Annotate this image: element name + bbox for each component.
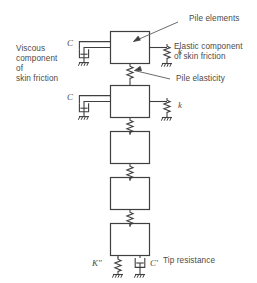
tip-dashpot xyxy=(134,256,145,278)
elastic-spring-element-2 xyxy=(150,98,173,121)
pile-elasticity-spring-1 xyxy=(127,64,133,86)
label-tip-resistance: Tip resistance xyxy=(163,256,215,266)
symbol-tip-dashpot-C: Cʹ xyxy=(150,258,158,268)
elastic-spring-element-1 xyxy=(150,44,173,67)
label-viscous-line1: Viscous xyxy=(16,44,45,54)
symbol-dashpot-C-second: C xyxy=(67,92,73,102)
tip-spring xyxy=(112,256,123,278)
viscous-dashpot-element-1 xyxy=(71,42,111,66)
symbol-dashpot-C-top: C xyxy=(67,38,73,48)
pile-element-box-4 xyxy=(111,178,150,210)
label-viscous-line4: skin friction xyxy=(16,74,58,84)
label-pile-elements: Pile elements xyxy=(189,14,239,24)
leader-pile-elasticity xyxy=(135,66,171,79)
ground-symbol xyxy=(78,117,89,120)
viscous-dashpot-element-2 xyxy=(78,96,110,120)
pile-element-box-1 xyxy=(111,32,150,64)
pile-element-box-3 xyxy=(111,132,150,164)
pile-model-diagram: Pile elements Elastic component of skin … xyxy=(0,0,257,283)
ground-symbol xyxy=(161,118,172,121)
ground-symbol xyxy=(112,275,123,278)
symbol-spring-k-second: k xyxy=(178,100,182,110)
label-elastic-component-line1: Elastic component xyxy=(174,42,243,52)
pile-element-box-5 xyxy=(111,224,150,256)
ground-symbol xyxy=(78,63,89,66)
ground-symbol xyxy=(134,275,145,278)
ground-symbol xyxy=(161,64,172,67)
pile-element-box-2 xyxy=(111,86,150,118)
label-viscous-line2: component xyxy=(16,54,57,64)
label-viscous-line3: of xyxy=(16,64,23,74)
symbol-spring-k-top: k xyxy=(178,46,182,56)
label-pile-elasticity: Pile elasticity xyxy=(176,74,225,84)
symbol-tip-spring-K: K" xyxy=(92,258,102,268)
